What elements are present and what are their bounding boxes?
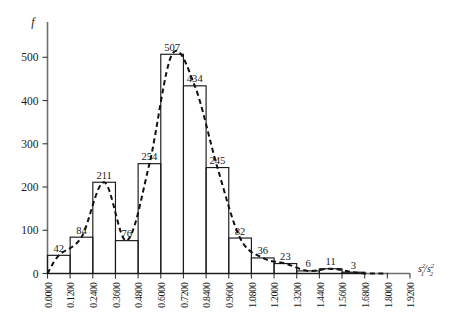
y-tick-label: 500 <box>21 51 39 63</box>
x-axis-title: s21/s22 <box>418 262 435 277</box>
x-axis-title-sup-b: 2 <box>431 262 435 269</box>
bar-value-labels: 4284211762545074342458236236113 <box>54 42 356 271</box>
bar-value-label: 23 <box>280 251 291 262</box>
bar-value-label: 11 <box>326 256 336 267</box>
x-tick-label: 1.5600 <box>337 282 348 308</box>
histogram-chart: 0100200300400500 0.00000.12000.24000.360… <box>0 0 459 327</box>
y-tick-label: 0 <box>33 268 39 280</box>
x-tick-label: 0.9600 <box>224 282 235 308</box>
histogram-bar <box>70 237 93 273</box>
bar-value-label: 36 <box>257 245 268 256</box>
histogram-bar <box>115 241 138 274</box>
y-tick-label: 400 <box>21 95 39 107</box>
x-tick-label: 0.4800 <box>133 282 144 308</box>
bar-value-label: 6 <box>305 258 310 269</box>
histogram-bar <box>251 258 274 274</box>
histogram-bars <box>48 54 365 273</box>
bar-value-label: 254 <box>142 151 159 162</box>
x-tick-label: 1.2000 <box>269 282 280 308</box>
y-tick-label: 300 <box>21 138 39 150</box>
histogram-bar <box>48 255 71 273</box>
histogram-bar <box>274 264 297 274</box>
x-axis-tick-labels: 0.00000.12000.24000.36000.48000.60000.72… <box>43 282 417 308</box>
y-axis-title: f <box>31 15 36 29</box>
x-tick-label: 1.4400 <box>315 282 326 308</box>
x-tick-label: 0.3600 <box>111 282 122 308</box>
x-tick-label: 0.6000 <box>156 282 167 308</box>
x-tick-label: 0.7200 <box>179 282 190 308</box>
x-tick-label: 1.3200 <box>292 282 303 308</box>
bar-value-label: 434 <box>187 73 204 84</box>
y-axis-tick-labels: 0100200300400500 <box>21 51 39 279</box>
histogram-bar <box>183 86 206 274</box>
x-tick-label: 0.1200 <box>65 282 76 308</box>
x-tick-label: 1.9200 <box>405 282 416 308</box>
histogram-svg: 0100200300400500 0.00000.12000.24000.360… <box>0 0 459 327</box>
x-tick-label: 0.2400 <box>88 282 99 308</box>
histogram-bar <box>138 164 161 274</box>
bar-value-label: 211 <box>96 170 112 181</box>
histogram-bar <box>161 54 184 273</box>
bar-value-label: 3 <box>351 260 356 271</box>
x-axis-title-sub-2: 2 <box>430 270 434 277</box>
x-tick-label: 1.8000 <box>383 282 394 308</box>
x-tick-label: 1.6800 <box>360 282 371 308</box>
x-tick-label: 0.8400 <box>201 282 212 308</box>
histogram-bar <box>229 238 252 273</box>
x-tick-label: 0.0000 <box>43 282 54 308</box>
y-tick-label: 200 <box>21 181 39 193</box>
x-tick-label: 1.0800 <box>247 282 258 308</box>
bar-value-label: 507 <box>164 42 180 53</box>
y-tick-label: 100 <box>21 224 39 236</box>
histogram-bar <box>206 168 229 274</box>
